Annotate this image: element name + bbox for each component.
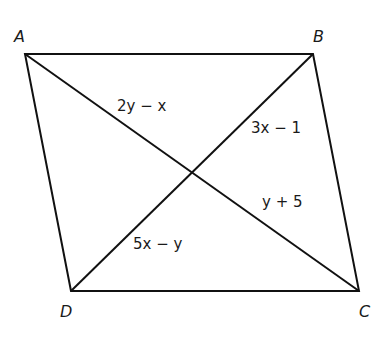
vertex-label-c: C xyxy=(359,302,371,321)
segment-label-be: 3x − 1 xyxy=(251,119,301,137)
parallelogram-diagram: A B C D 2y − x 3x − 1 y + 5 5x − y xyxy=(0,0,386,345)
segment-label-ae: 2y − x xyxy=(117,97,167,115)
vertex-label-b: B xyxy=(313,27,324,46)
diagonal-bd xyxy=(71,54,313,291)
vertex-label-d: D xyxy=(60,302,72,321)
segment-label-de: 5x − y xyxy=(133,235,183,253)
vertex-label-a: A xyxy=(13,27,25,46)
segment-label-ce: y + 5 xyxy=(262,193,303,211)
